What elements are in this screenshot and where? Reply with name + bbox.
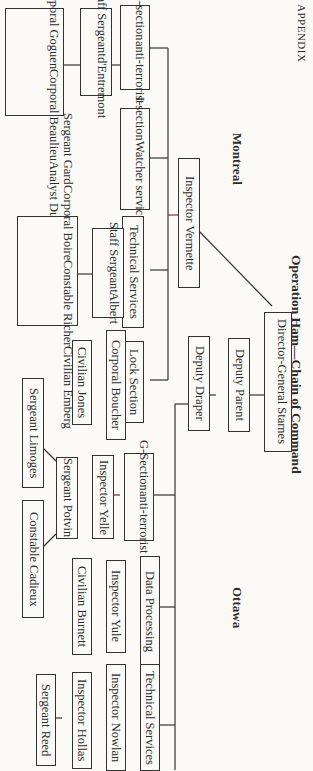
node-inspector-yule: Inspector Yule bbox=[106, 560, 126, 653]
node-ott-data-processing: Data Processing bbox=[140, 556, 160, 666]
node-mtl-technical-services: Technical Services bbox=[122, 216, 144, 328]
node-team-gard: Sergeant Gard Corporal Boire Constable R… bbox=[17, 216, 78, 326]
node-sergeant-reed: Sergeant Reed bbox=[36, 674, 56, 766]
node-team-pelletier: Sergeant Pelletier Corporal Goguen Corpo… bbox=[5, 8, 64, 116]
node-mtl-g-section: G-section anti-terrorist bbox=[120, 5, 150, 90]
node-inspector-vermette: Inspector Vermette bbox=[178, 158, 200, 288]
node-director-general-starnes: Director-General Starnes bbox=[264, 312, 292, 452]
node-inspector-hollas: Inspector Hollas bbox=[72, 672, 92, 769]
node-staff-sergeant-dentremont: Staff Sergeant d'Entremont bbox=[80, 8, 112, 96]
node-staff-sergeant-albert: Staff Sergeant Albert bbox=[92, 228, 124, 318]
node-deputy-draper: Deputy Draper bbox=[188, 336, 210, 431]
node-inspector-yelle: Inspector Yelle bbox=[92, 455, 114, 539]
node-inspector-nowlan: Inspector Nowlan bbox=[106, 664, 126, 771]
node-ott-g-section: G-Section anti-terrorist bbox=[124, 453, 154, 541]
node-constable-cadieux: Constable Cadieux bbox=[22, 500, 44, 618]
node-ott-technical-services: Technical Services bbox=[140, 664, 160, 771]
node-civilian-jones: Civilian Jones bbox=[72, 340, 92, 425]
node-sergeant-limoges: Sergeant Limoges bbox=[22, 378, 44, 488]
node-corporal-boucher: Corporal Boucher bbox=[106, 330, 126, 440]
node-deputy-parent: Deputy Parent bbox=[228, 338, 250, 432]
node-sergeant-potvin: Sergeant Potvin bbox=[56, 457, 78, 539]
node-mtl-i-section: I-section Watcher service bbox=[120, 108, 150, 210]
node-civilian-burnett: Civilian Burnett bbox=[72, 558, 92, 655]
